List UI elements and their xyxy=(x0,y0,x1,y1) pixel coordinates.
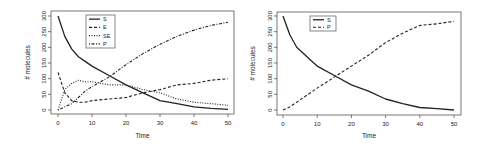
y-tick-label: 200 xyxy=(41,42,47,53)
y-tick-label: 300 xyxy=(41,10,47,21)
x-tick-label: 20 xyxy=(348,121,355,127)
x-tick-label: 30 xyxy=(382,121,389,127)
y-axis: 050100150200250300 xyxy=(41,10,51,111)
legend-label: S xyxy=(103,16,107,22)
series-line-S xyxy=(283,16,454,110)
x-axis: 01020304050 xyxy=(56,114,232,126)
y-tick-label: 100 xyxy=(267,73,273,84)
chart-panel-2: 01020304050Time050100150200250300# molec… xyxy=(249,10,461,139)
y-tick-label: 250 xyxy=(267,26,273,37)
series-line-E xyxy=(58,72,228,102)
legend: SP xyxy=(310,16,336,31)
x-tick-label: 0 xyxy=(281,121,285,127)
y-tick-label: 200 xyxy=(267,42,273,53)
x-tick-label: 0 xyxy=(56,120,60,126)
y-tick-label: 50 xyxy=(41,90,47,97)
x-tick-label: 10 xyxy=(89,120,96,126)
series-line-P xyxy=(58,22,228,110)
y-tick-label: 150 xyxy=(267,57,273,68)
legend-label: P xyxy=(103,41,107,47)
y-tick-label: 0 xyxy=(267,108,273,112)
x-tick-label: 50 xyxy=(225,120,232,126)
x-tick-label: 50 xyxy=(451,121,458,127)
y-tick-label: 100 xyxy=(41,73,47,84)
x-tick-label: 30 xyxy=(157,120,164,126)
y-tick-label: 250 xyxy=(41,26,47,37)
legend-label: S xyxy=(327,17,331,23)
legend-label: P xyxy=(327,24,331,30)
figure: 01020304050Time050100150200250300# molec… xyxy=(0,0,484,148)
x-axis-label: Time xyxy=(362,132,377,139)
y-axis-label: # molecules xyxy=(249,45,256,80)
y-tick-label: 300 xyxy=(267,10,273,21)
series-line-SE xyxy=(58,80,228,110)
y-tick-label: 0 xyxy=(41,108,47,112)
legend: SESEP xyxy=(86,15,115,48)
x-tick-label: 10 xyxy=(314,121,321,127)
plot-frame xyxy=(277,12,461,115)
x-axis-label: Time xyxy=(135,132,150,139)
legend-label: SE xyxy=(103,33,111,39)
chart-panel-1: 01020304050Time050100150200250300# molec… xyxy=(24,10,234,139)
x-tick-label: 40 xyxy=(191,120,198,126)
y-axis: 050100150200250300 xyxy=(267,10,277,111)
y-tick-label: 50 xyxy=(267,90,273,97)
y-tick-label: 150 xyxy=(41,57,47,68)
y-axis-label: # molecules xyxy=(24,44,31,79)
series-line-S xyxy=(58,16,228,109)
x-tick-label: 40 xyxy=(416,121,423,127)
x-axis: 01020304050 xyxy=(281,115,458,127)
x-tick-label: 20 xyxy=(123,120,130,126)
series-line-P xyxy=(283,21,454,110)
legend-label: E xyxy=(103,24,107,30)
